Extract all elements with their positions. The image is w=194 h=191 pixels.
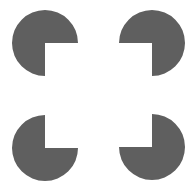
- pacman-bottom-right: [119, 114, 185, 180]
- kanizsa-figure: [0, 0, 194, 191]
- pacman-top-right: [119, 10, 185, 76]
- pacman-top-left: [12, 10, 78, 76]
- pacman-bottom-left: [12, 115, 78, 181]
